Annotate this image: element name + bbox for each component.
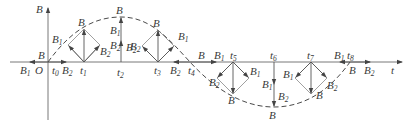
svg-text:t6: t6 [270, 49, 277, 63]
svg-text:t1: t1 [80, 64, 87, 78]
svg-text:B2: B2 [62, 64, 73, 78]
svg-text:B: B [269, 109, 276, 121]
svg-text:B2: B2 [110, 39, 121, 53]
svg-text:B: B [316, 89, 323, 101]
svg-text:B1: B1 [178, 30, 188, 44]
svg-text:B2: B2 [170, 64, 181, 78]
svg-text:B: B [38, 49, 45, 61]
magnetic-field-diagram: B t O B1 B t0 B2 B B1 B2 t1 B B1 B2 B2 t… [0, 0, 410, 126]
station-t0: B1 B t0 B2 [20, 49, 73, 78]
svg-text:B1: B1 [52, 33, 62, 47]
svg-text:B: B [78, 16, 85, 28]
svg-text:B1: B1 [20, 64, 30, 78]
svg-text:B: B [228, 94, 235, 106]
b-axis-label: B [36, 3, 43, 15]
svg-text:B2: B2 [278, 90, 289, 104]
svg-text:B1: B1 [250, 65, 260, 79]
svg-text:B1: B1 [334, 49, 344, 63]
svg-text:B1: B1 [214, 49, 224, 63]
origin-label: O [35, 64, 43, 76]
svg-text:t8: t8 [347, 49, 354, 63]
svg-text:B2: B2 [364, 64, 375, 78]
svg-text:B: B [153, 17, 160, 29]
svg-text:t0: t0 [52, 64, 59, 78]
svg-text:t7: t7 [307, 49, 314, 63]
station-t8: B1 t8 B B2 [334, 49, 375, 78]
station-t4: B2 t4 B B1 [170, 49, 224, 78]
svg-text:B1: B1 [110, 24, 120, 38]
svg-text:B: B [116, 4, 123, 16]
svg-text:B1: B1 [262, 78, 272, 92]
t-axis-label: t [391, 64, 395, 76]
svg-text:B1: B1 [283, 68, 293, 82]
station-t7: t7 B1 B2 B [283, 49, 338, 101]
svg-text:B2: B2 [209, 76, 220, 90]
svg-text:t5: t5 [230, 49, 237, 63]
svg-text:t3: t3 [154, 64, 161, 78]
station-t6: t6 B1 B2 B [262, 49, 289, 121]
svg-text:B2: B2 [327, 79, 338, 93]
svg-text:t2: t2 [117, 66, 124, 80]
svg-text:B: B [349, 64, 356, 76]
svg-text:B: B [198, 49, 205, 61]
svg-text:B2: B2 [130, 40, 141, 54]
